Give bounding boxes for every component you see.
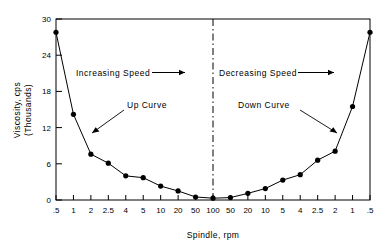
x-tick-label: 1 [350,206,355,215]
data-point [298,172,303,177]
annotation-increasing-speed: Increasing Speed [76,68,185,78]
x-tick-label: 10 [156,206,165,215]
annotation-up-curve: Up Curve [92,100,167,133]
x-tick-label: 2.5 [103,206,115,215]
x-tick-label: 4 [298,206,303,215]
data-point [53,30,58,35]
data-point [210,196,215,201]
x-tick-labels: .5122.545102050100502010542.521.5 [53,206,374,215]
data-point [245,191,250,196]
data-point [141,175,146,180]
x-tick-label: 1 [71,206,76,215]
y-tick-labels: 0 6 12 18 24 30 [42,15,51,205]
x-tick-label: 5 [141,206,146,215]
data-point [71,112,76,117]
y-tick-label: 30 [42,15,51,24]
x-tick-label: .5 [53,206,60,215]
arrow-head-icon [179,70,185,75]
x-tick-label: 50 [226,206,235,215]
data-point [350,104,355,109]
data-point [367,30,372,35]
chart-figure: 0 6 12 18 24 30 Viscosity, cps (Thousand… [0,0,392,249]
x-tick-label: 2.5 [312,206,324,215]
x-tick-label: 50 [191,206,200,215]
x-tick-label: 5 [281,206,286,215]
x-tick-label: 10 [261,206,270,215]
x-tick-label: 100 [206,206,220,215]
y-axis-title-line1: Viscosity, cps [12,82,22,138]
data-point [280,177,285,182]
x-tick-label: .5 [367,206,374,215]
y-tick-label: 24 [42,51,51,60]
data-line [56,32,370,198]
annotation-up-curve-label: Up Curve [127,100,167,110]
y-tick-label: 18 [42,87,51,96]
y-tick-label: 0 [47,196,52,205]
x-axis-title: Spindle, rpm [187,230,240,240]
arrow-head-icon [328,70,334,75]
data-point [106,161,111,166]
data-point [88,152,93,157]
data-point [123,173,128,178]
data-point [176,188,181,193]
annotation-decreasing-speed-label: Decreasing Speed [219,68,297,78]
y-axis-title-line2: (Thousands) [23,84,33,136]
annotation-decreasing-speed: Decreasing Speed [219,68,334,78]
x-tick-label: 20 [243,206,252,215]
x-tick-label: 2 [333,206,338,215]
data-point [333,149,338,154]
arrow-head-icon [330,127,338,133]
annotation-increasing-speed-label: Increasing Speed [76,68,150,78]
y-axis-title: Viscosity, cps (Thousands) [12,82,33,138]
data-point [315,158,320,163]
data-point [263,186,268,191]
annotation-down-curve: Down Curve [238,100,337,133]
x-tick-label: 4 [124,206,129,215]
y-tick-label: 12 [42,124,51,133]
chart-svg: 0 6 12 18 24 30 Viscosity, cps (Thousand… [0,0,392,249]
annotation-down-curve-label: Down Curve [238,100,290,110]
data-point [193,194,198,199]
y-tick-label: 6 [47,160,52,169]
data-point [228,195,233,200]
x-tick-label: 20 [174,206,183,215]
x-tick-label: 2 [89,206,94,215]
data-point [158,184,163,189]
